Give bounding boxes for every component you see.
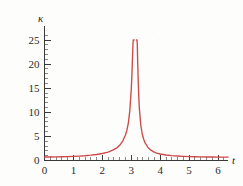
- y-tick-label: 15: [29, 82, 41, 94]
- curvature-plot-figure: 5101520250 0123456 κ t: [0, 0, 243, 186]
- y-axis-tick-labels: 5101520250: [29, 34, 41, 167]
- x-axis-title: t: [232, 154, 236, 166]
- origin-label: 0: [34, 154, 40, 166]
- y-axis-title: κ: [38, 12, 44, 24]
- x-tick-label: 0: [42, 164, 48, 176]
- x-tick-label: 2: [100, 164, 106, 176]
- axes-group: [45, 26, 229, 161]
- y-tick-label: 5: [34, 130, 40, 142]
- plot-canvas: 5101520250 0123456 κ t: [0, 0, 243, 186]
- y-tick-label: 25: [29, 34, 41, 46]
- x-tick-label: 1: [71, 164, 77, 176]
- curvature-curve: [45, 40, 229, 157]
- x-tick-label: 5: [186, 164, 192, 176]
- x-tick-label: 6: [215, 164, 221, 176]
- x-axis-tick-labels: 0123456: [42, 164, 222, 176]
- y-axis-ticks: [45, 35, 51, 156]
- y-tick-label: 10: [29, 106, 41, 118]
- y-tick-label: 20: [29, 58, 41, 70]
- x-tick-label: 3: [129, 164, 135, 176]
- x-tick-label: 4: [157, 164, 163, 176]
